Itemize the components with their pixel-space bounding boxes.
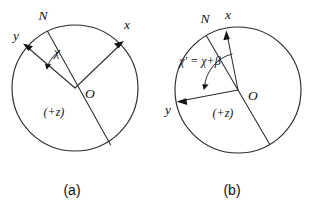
diagram-panel-b: N x y O (+z) χ' = χ+β <box>160 0 320 178</box>
label-x-axis-a: x <box>123 17 130 32</box>
y-axis-line-b <box>180 90 238 101</box>
label-origin-b: O <box>248 88 258 103</box>
label-north-b: N <box>199 11 210 26</box>
label-origin-a: O <box>85 86 95 101</box>
label-y-axis-b: y <box>163 102 171 117</box>
label-z-axis-b: (+z) <box>213 106 234 120</box>
angle-arc-arrowhead-b <box>202 84 208 90</box>
x-axis-line-a <box>75 44 121 88</box>
caption-a: (a) <box>52 182 92 198</box>
diagram-panel-a: N x y O (+z) χ <box>0 0 160 178</box>
label-z-axis-a: (+z) <box>44 105 65 119</box>
x-axis-arrowhead-b <box>223 31 230 41</box>
figure-root: N x y O (+z) χ N x y O (+z) χ' = χ+β (a)… <box>0 0 320 213</box>
label-angle-chi-prime-b: χ' = χ+β <box>178 54 220 68</box>
caption-b: (b) <box>212 182 252 198</box>
label-angle-chi-a: χ <box>52 44 61 59</box>
label-y-axis-a: y <box>11 28 19 43</box>
label-north-a: N <box>37 8 48 23</box>
y-axis-arrowhead-b <box>177 98 188 105</box>
label-x-axis-b: x <box>224 7 231 22</box>
